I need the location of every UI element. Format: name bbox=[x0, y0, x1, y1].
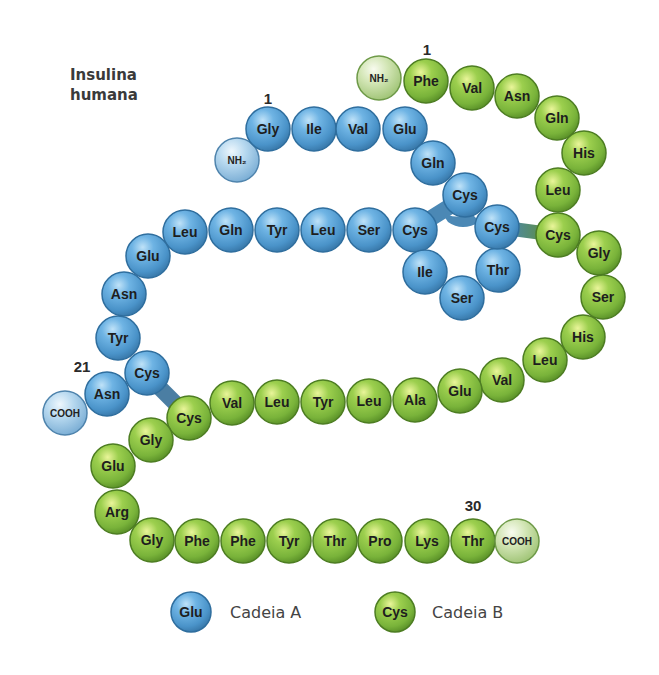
chain-b-residue-16: Tyr bbox=[301, 380, 345, 424]
chain-b-residue-22-label: Arg bbox=[105, 504, 129, 520]
chain-b-residue-28: Pro bbox=[358, 519, 402, 563]
chain-a-residue-5: Gln bbox=[411, 141, 455, 185]
chain-b-residue-11: Leu bbox=[523, 338, 567, 382]
chain-b-residue-18-label: Val bbox=[222, 395, 242, 411]
chain-a-residue-6-label: Cys bbox=[452, 187, 478, 203]
chain-b-residue-20: Gly bbox=[129, 418, 173, 462]
chain-b-residue-19: Cys bbox=[167, 396, 211, 440]
chain-a-start-number: 1 bbox=[264, 90, 272, 107]
title-line-1: Insulina bbox=[70, 66, 137, 84]
chain-b-end-number: 30 bbox=[465, 497, 482, 514]
chain-a-residue-20-label: Cys bbox=[134, 365, 160, 381]
chain-b-residue-25-label: Phe bbox=[230, 533, 256, 549]
chain-b-residue-13-label: Glu bbox=[448, 383, 471, 399]
chain-a-residue-17-label: Glu bbox=[136, 248, 159, 264]
chain-a-residue-3: Val bbox=[336, 107, 380, 151]
chain-b-residue-6: Leu bbox=[536, 168, 580, 212]
chain-a-residue-20: Cys bbox=[125, 351, 169, 395]
chain-b-residue-2: Val bbox=[450, 66, 494, 110]
chain-a-residue-10: Ile bbox=[403, 250, 447, 294]
chain-b-residue-5: His bbox=[562, 131, 606, 175]
chain-b-residue-12-label: Val bbox=[492, 372, 512, 388]
chain-a-residue-18-label: Asn bbox=[111, 286, 137, 302]
chain-b-residue-9: Ser bbox=[581, 275, 625, 319]
chain-b-residue-17: Leu bbox=[255, 380, 299, 424]
chain-b-residue-17-label: Leu bbox=[265, 394, 290, 410]
chain-b-residue-23: Gly bbox=[130, 518, 174, 562]
chain-a-end-number: 21 bbox=[74, 358, 91, 375]
chain-b-residue-3-label: Asn bbox=[504, 88, 530, 104]
chain-a-residue-7-label: Cys bbox=[402, 222, 428, 238]
chain-b-residue-15-label: Leu bbox=[357, 393, 382, 409]
chain-a-residue-2-label: Ile bbox=[306, 121, 322, 137]
chain-b-residue-29-label: Lys bbox=[415, 533, 439, 549]
chain-b-residue-30: Thr bbox=[451, 519, 495, 563]
chain-b-residue-14: Ala bbox=[393, 378, 437, 422]
chain-b-start-number: 1 bbox=[423, 41, 431, 58]
chain-b-residue-25: Phe bbox=[221, 519, 265, 563]
chain-a-residue-12-label: Ser bbox=[358, 222, 381, 238]
chain-b-c-terminal: COOH bbox=[495, 519, 539, 563]
chain-b-n-terminal-label: NH₂ bbox=[370, 73, 389, 84]
legend-item-chain-a: Glu Cadeia A bbox=[171, 592, 301, 632]
legend-label-chain-b: Cadeia B bbox=[432, 603, 503, 622]
chain-b-residue-12: Val bbox=[480, 358, 524, 402]
chain-b-residue-2-label: Val bbox=[462, 80, 482, 96]
chain-b-residue-26: Tyr bbox=[267, 519, 311, 563]
chain-b-residue-26-label: Tyr bbox=[279, 533, 300, 549]
chain-a-residue-7: Cys bbox=[393, 208, 437, 252]
chain-a-residue-13: Leu bbox=[301, 208, 345, 252]
chain-b-residue-29: Lys bbox=[405, 519, 449, 563]
chain-b-c-terminal-label: COOH bbox=[502, 536, 532, 547]
chain-b-residue-16-label: Tyr bbox=[313, 394, 334, 410]
chain-b-residue-22: Arg bbox=[95, 490, 139, 534]
chain-b-residue-10-label: His bbox=[572, 329, 594, 345]
chain-a-residue-3-label: Val bbox=[348, 121, 368, 137]
chain-a-residue-2: Ile bbox=[292, 107, 336, 151]
chain-a-residue-6: Cys bbox=[443, 173, 487, 217]
chain-b-residue-13: Glu bbox=[438, 369, 482, 413]
chain-b-residue-30-label: Thr bbox=[462, 533, 485, 549]
legend-bead-label-b: Cys bbox=[382, 604, 408, 620]
chain-a-c-terminal: COOH bbox=[43, 391, 87, 435]
chain-b-residue-6-label: Leu bbox=[546, 182, 571, 198]
chain-b-residue-3: Asn bbox=[495, 74, 539, 118]
chain-a-residue-13-label: Leu bbox=[311, 222, 336, 238]
chain-b-residue-14-label: Ala bbox=[404, 392, 426, 408]
chain-a-residue-1: Gly bbox=[246, 107, 290, 151]
legend-label-chain-a: Cadeia A bbox=[230, 603, 301, 622]
chain-a-residue-4-label: Glu bbox=[393, 121, 416, 137]
chain-a-residue-19-label: Tyr bbox=[108, 330, 129, 346]
chain-a-residue-9: Ser bbox=[440, 276, 484, 320]
chain-a-residue-21-label: Asn bbox=[94, 386, 120, 402]
chain-a-residue-1-label: Gly bbox=[257, 121, 280, 137]
chain-b-residue-21: Glu bbox=[91, 444, 135, 488]
chain-b-residue-8-label: Gly bbox=[588, 245, 611, 261]
chain-b-residue-27: Thr bbox=[313, 519, 357, 563]
chain-b-residue-21-label: Glu bbox=[101, 458, 124, 474]
chain-b-residue-24-label: Phe bbox=[184, 533, 210, 549]
chain-b-residue-5-label: His bbox=[573, 145, 595, 161]
chain-b-residue-1: Phe bbox=[404, 59, 448, 103]
chain-a-residue-11-label: Cys bbox=[484, 219, 510, 235]
chain-a-residue-8-label: Thr bbox=[487, 262, 510, 278]
chain-b-residue-1-label: Phe bbox=[413, 73, 439, 89]
chain-b-residue-7-label: Cys bbox=[545, 227, 571, 243]
chain-b-residue-28-label: Pro bbox=[368, 533, 391, 549]
insulin-structure-diagram: Insulina humana 1 21 1 30 NH₂GlyIleValGl… bbox=[0, 0, 659, 675]
chain-a-residue-17: Glu bbox=[126, 234, 170, 278]
chain-b-residue-20-label: Gly bbox=[140, 432, 163, 448]
chain-b-residue-7: Cys bbox=[536, 213, 580, 257]
chain-a-residue-11: Cys bbox=[475, 205, 519, 249]
chain-b-residue-8: Gly bbox=[577, 231, 621, 275]
chain-a-residue-10-label: Ile bbox=[417, 264, 433, 280]
chain-a-residue-14-label: Tyr bbox=[267, 222, 288, 238]
chain-b-residue-11-label: Leu bbox=[533, 352, 558, 368]
chain-b-residue-15: Leu bbox=[347, 379, 391, 423]
chain-a-residue-5-label: Gln bbox=[421, 155, 444, 171]
legend-bead-label-a: Glu bbox=[179, 604, 202, 620]
chain-a-residue-15-label: Gln bbox=[219, 222, 242, 238]
chain-b-residue-19-label: Cys bbox=[176, 410, 202, 426]
chain-b-residue-23-label: Gly bbox=[141, 532, 164, 548]
chain-a-residue-14: Tyr bbox=[255, 208, 299, 252]
